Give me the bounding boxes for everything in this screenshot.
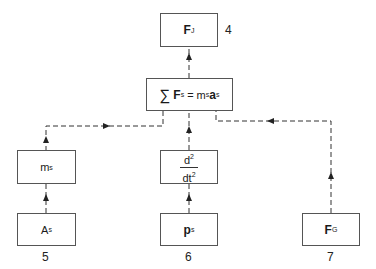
arrow-left-icon — [267, 118, 274, 124]
arrow-up-icon — [186, 53, 192, 60]
sum-force-symbol: F — [173, 88, 180, 102]
arrow-up-icon — [186, 126, 192, 133]
arrow-up-icon — [328, 172, 334, 179]
accel-subscript: s — [216, 91, 220, 98]
arrow-up-icon — [43, 194, 49, 201]
arrow-right-icon — [103, 123, 110, 129]
mass-symbol: m — [197, 89, 206, 101]
derivative-fraction: d2 dt2 — [180, 151, 198, 183]
as-subscript: s — [48, 226, 52, 233]
fg-symbol: F — [325, 223, 332, 237]
fj-subscript: J — [191, 27, 195, 34]
node-number-4: 4 — [225, 23, 232, 37]
node-as: As — [17, 213, 76, 246]
node-sum-forces: ∑ Fs = ms as — [146, 78, 233, 111]
deriv-numerator-exp: 2 — [190, 153, 194, 160]
node-number-6: 6 — [185, 250, 192, 264]
sum-force-subscript: s — [181, 91, 185, 98]
edge-sum-ms — [46, 111, 163, 150]
fj-symbol: F — [184, 23, 191, 37]
arrow-up-icon — [186, 194, 192, 201]
arrow-up-icon — [43, 136, 49, 143]
fraction-bar — [180, 167, 198, 168]
ps-subscript: s — [191, 226, 195, 233]
fg-subscript: G — [332, 226, 337, 233]
node-second-derivative: d2 dt2 — [160, 150, 218, 184]
node-ps: ps — [160, 213, 218, 246]
node-fj: FJ — [160, 13, 218, 47]
ms-symbol: m — [40, 161, 49, 173]
node-number-5: 5 — [42, 250, 49, 264]
as-symbol: A — [41, 224, 48, 236]
node-fg: FG — [302, 213, 360, 246]
node-ms: ms — [17, 150, 76, 184]
deriv-denominator: dt — [182, 171, 191, 183]
sigma-symbol: ∑ — [160, 86, 171, 103]
ps-symbol: p — [184, 223, 191, 237]
node-number-7: 7 — [327, 250, 334, 264]
edge-fg-to-sum — [216, 111, 331, 213]
equals-sign: = — [187, 89, 193, 101]
deriv-denominator-exp: 2 — [192, 171, 196, 178]
ms-subscript: s — [49, 164, 53, 171]
accel-symbol: a — [209, 88, 216, 102]
